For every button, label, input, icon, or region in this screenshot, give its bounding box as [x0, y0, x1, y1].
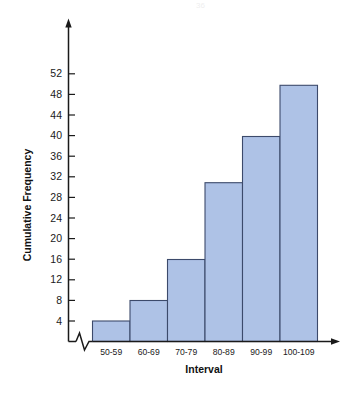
x-tick-label-60-69: 60-69 [138, 347, 160, 357]
x-axis-title: Interval [185, 363, 222, 375]
x-tick-label-50-59: 50-59 [100, 347, 122, 357]
x-tick-label-80-89: 80-89 [213, 347, 235, 357]
bar-50-59 [93, 321, 131, 342]
y-axis-title: Cumulative Frequency [21, 149, 33, 262]
y-tick-label-24: 24 [50, 212, 62, 224]
y-tick-label-48: 48 [50, 88, 62, 100]
bar-80-89 [205, 183, 243, 342]
y-tick-label-28: 28 [50, 191, 62, 203]
y-tick-label-8: 8 [56, 294, 62, 306]
bar-70-79 [168, 260, 206, 342]
bar-60-69 [130, 301, 168, 342]
cumulative-frequency-chart: 36 [0, 0, 354, 393]
y-tick-label-36: 36 [50, 150, 62, 162]
y-tick-label-32: 32 [50, 170, 62, 182]
y-tick-label-40: 40 [50, 129, 62, 141]
x-tick-label-100-109: 100-109 [283, 347, 315, 357]
x-tick-label-90-99: 90-99 [250, 347, 272, 357]
y-tick-label-52: 52 [50, 67, 62, 79]
y-tick-label-16: 16 [50, 253, 62, 265]
y-tick-label-12: 12 [50, 273, 62, 285]
x-tick-label-70-79: 70-79 [175, 347, 197, 357]
y-tick-label-44: 44 [50, 109, 62, 121]
y-tick-label-20: 20 [50, 232, 62, 244]
chart-svg: 4 8 12 16 20 24 28 32 36 40 44 48 52 50-… [0, 0, 354, 393]
bar-90-99 [243, 137, 281, 342]
y-tick-label-4: 4 [56, 315, 62, 327]
bar-100-109 [280, 85, 318, 341]
